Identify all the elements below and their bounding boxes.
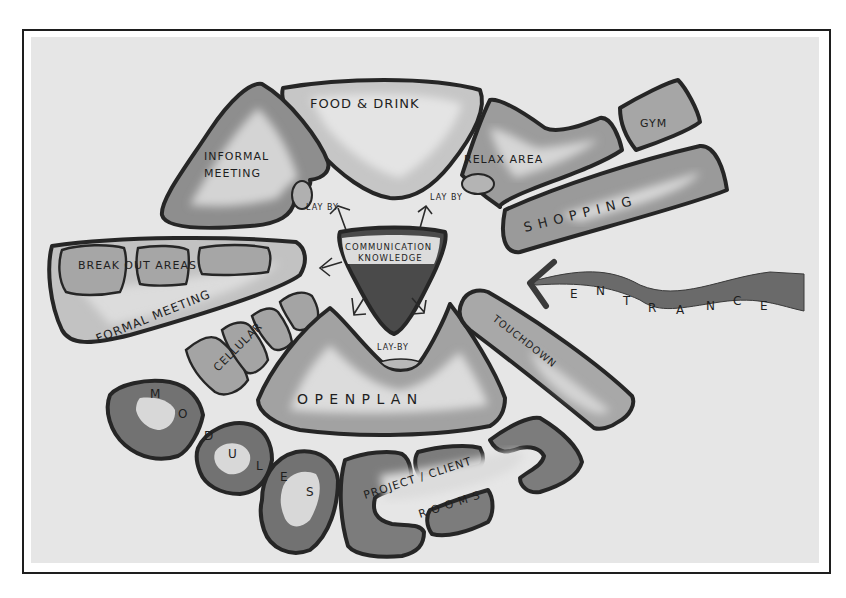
- entrance-letter-7: C: [733, 294, 742, 308]
- modules-letter-o: O: [178, 407, 188, 421]
- open-plan-label: O P E N P L A N: [297, 391, 418, 407]
- entrance-arrow: E N T R A N C E: [530, 262, 804, 317]
- informal-meeting-label-1: INFORMAL: [204, 150, 269, 163]
- entrance-letter-4: R: [648, 301, 657, 315]
- modules-letter-e: E: [280, 470, 289, 484]
- entrance-letter-2: N: [596, 284, 606, 298]
- entrance-letter-6: N: [706, 299, 716, 313]
- entrance-letter-1: E: [570, 287, 579, 301]
- entrance-letter-3: T: [622, 294, 631, 308]
- bubble-diagram: FOOD & DRINK INFORMAL MEETING RELAX AREA…: [0, 0, 846, 598]
- modules-letter-d: D: [204, 429, 214, 443]
- communication-label: COMMUNICATION: [345, 242, 432, 252]
- entrance-letter-5: A: [676, 303, 685, 317]
- gym-label: GYM: [640, 117, 667, 130]
- informal-meeting-label-2: MEETING: [204, 167, 261, 180]
- modules-letter-l: L: [256, 459, 264, 473]
- knowledge-label: KNOWLEDGE: [358, 253, 423, 263]
- relax-area-label: RELAX AREA: [464, 153, 543, 166]
- modules-letter-u: U: [228, 447, 238, 461]
- zone-gym: GYM: [620, 80, 700, 150]
- modules-letter-m: M: [150, 387, 161, 401]
- lay-by-label-left: LAY BY: [306, 203, 339, 212]
- zone-communication-knowledge: COMMUNICATION KNOWLEDGE: [339, 228, 446, 335]
- entrance-letter-8: E: [760, 299, 769, 313]
- break-out-areas-label: BREAK OUT AREAS: [78, 259, 197, 272]
- modules-letter-s: S: [306, 485, 315, 499]
- lay-by-label-bottom: LAY-BY: [377, 343, 409, 352]
- lay-by-label-right: LAY BY: [430, 193, 463, 202]
- zone-project-client-rooms: PROJECT / CLIENT R O O M S: [341, 418, 582, 557]
- food-drink-label: FOOD & DRINK: [310, 96, 419, 111]
